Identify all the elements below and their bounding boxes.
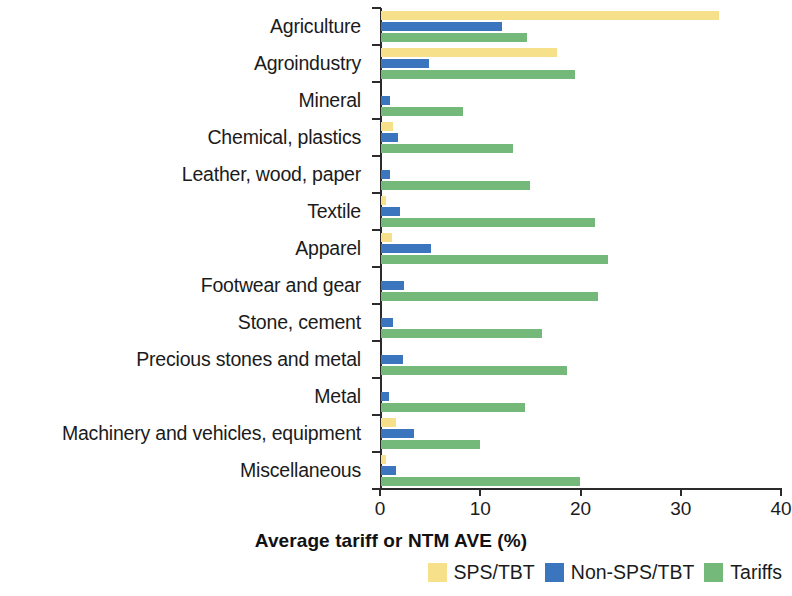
y-axis-tick — [372, 229, 381, 231]
bar-nonsps — [381, 318, 393, 327]
x-axis-tick — [479, 488, 481, 496]
y-axis-tick — [372, 451, 381, 453]
x-axis-tick-label: 40 — [770, 499, 791, 518]
x-axis-tick — [780, 488, 782, 496]
y-axis-tick — [372, 377, 381, 379]
category-label-mineral: Mineral — [298, 91, 361, 111]
y-axis-tick — [372, 266, 381, 268]
y-axis-tick — [372, 414, 381, 416]
bar-nonsps — [381, 281, 404, 290]
bar-tariff — [381, 33, 527, 42]
y-axis-category-labels: AgricultureAgroindustryMineralChemical, … — [0, 8, 371, 489]
x-axis-tick-label: 30 — [670, 499, 691, 518]
bar-group — [381, 122, 782, 153]
y-axis-tick — [372, 340, 381, 342]
category-label-footwear-and-gear: Footwear and gear — [201, 276, 361, 296]
bar-sps — [381, 48, 557, 57]
x-axis-tick — [680, 488, 682, 496]
bar-group — [381, 418, 782, 449]
category-label-textile: Textile — [307, 202, 361, 222]
bar-sps — [381, 233, 392, 242]
y-axis-tick — [372, 488, 381, 490]
bar-group — [381, 307, 782, 338]
bar-sps — [381, 11, 719, 20]
legend-label: Tariffs — [730, 563, 782, 583]
bar-group — [381, 85, 782, 116]
bar-tariff — [381, 477, 580, 486]
x-axis-tick — [580, 488, 582, 496]
bar-tariff — [381, 440, 480, 449]
y-axis-tick — [372, 7, 381, 9]
category-label-chemical-plastics: Chemical, plastics — [207, 128, 361, 148]
bar-nonsps — [381, 392, 389, 401]
bar-group — [381, 381, 782, 412]
category-label-leather-wood-paper: Leather, wood, paper — [182, 165, 361, 185]
bar-sps — [381, 196, 386, 205]
y-axis-tick — [372, 44, 381, 46]
x-axis-title: Average tariff or NTM AVE (%) — [0, 530, 782, 552]
bar-sps — [381, 418, 396, 427]
plot-area — [381, 8, 782, 489]
legend-swatch-nonsps-icon — [545, 563, 564, 582]
bar-nonsps — [381, 466, 396, 475]
legend-item-tariff[interactable]: Tariffs — [704, 563, 782, 583]
x-axis-tick-label: 10 — [470, 499, 491, 518]
category-label-stone-cement: Stone, cement — [238, 313, 361, 333]
bar-nonsps — [381, 429, 414, 438]
bar-group — [381, 159, 782, 190]
bar-nonsps — [381, 244, 431, 253]
bar-group — [381, 48, 782, 79]
bar-tariff — [381, 403, 525, 412]
bar-tariff — [381, 181, 530, 190]
y-axis-tick — [372, 303, 381, 305]
category-label-agriculture: Agriculture — [270, 17, 361, 37]
bar-tariff — [381, 218, 595, 227]
bar-nonsps — [381, 96, 390, 105]
category-label-agroindustry: Agroindustry — [254, 54, 361, 74]
y-axis-tick — [372, 192, 381, 194]
bar-nonsps — [381, 355, 403, 364]
bar-nonsps — [381, 133, 398, 142]
x-axis-tick-label: 0 — [375, 499, 386, 518]
category-label-apparel: Apparel — [295, 239, 361, 259]
bar-tariff — [381, 107, 463, 116]
bar-tariff — [381, 366, 567, 375]
y-axis-tick — [372, 81, 381, 83]
bar-group — [381, 11, 782, 42]
bar-tariff — [381, 292, 598, 301]
y-axis-tick — [372, 118, 381, 120]
category-label-metal: Metal — [314, 387, 361, 407]
bar-tariff — [381, 144, 513, 153]
category-label-precious-stones-and-metal: Precious stones and metal — [136, 350, 361, 370]
bar-group — [381, 344, 782, 375]
bar-sps — [381, 455, 386, 464]
bar-group — [381, 196, 782, 227]
bar-nonsps — [381, 22, 502, 31]
legend-item-nonsps[interactable]: Non-SPS/TBT — [545, 563, 695, 583]
legend-label: SPS/TBT — [454, 563, 535, 583]
y-axis-tick — [372, 155, 381, 157]
bar-group — [381, 270, 782, 301]
category-label-miscellaneous: Miscellaneous — [240, 461, 361, 481]
bar-tariff — [381, 329, 542, 338]
bar-nonsps — [381, 207, 400, 216]
bar-tariff — [381, 70, 575, 79]
legend-item-sps[interactable]: SPS/TBT — [428, 563, 535, 583]
bar-tariff — [381, 255, 608, 264]
legend-swatch-sps-icon — [428, 563, 447, 582]
bar-group — [381, 455, 782, 486]
category-label-machinery-and-vehicles-equipment: Machinery and vehicles, equipment — [62, 424, 361, 444]
chart-legend: SPS/TBTNon-SPS/TBTTariffs — [428, 563, 782, 583]
legend-swatch-tariff-icon — [704, 563, 723, 582]
bar-nonsps — [381, 170, 390, 179]
legend-label: Non-SPS/TBT — [571, 563, 695, 583]
bar-sps — [381, 122, 393, 131]
bar-group — [381, 233, 782, 264]
bar-nonsps — [381, 59, 429, 68]
x-axis-tick-label: 20 — [570, 499, 591, 518]
